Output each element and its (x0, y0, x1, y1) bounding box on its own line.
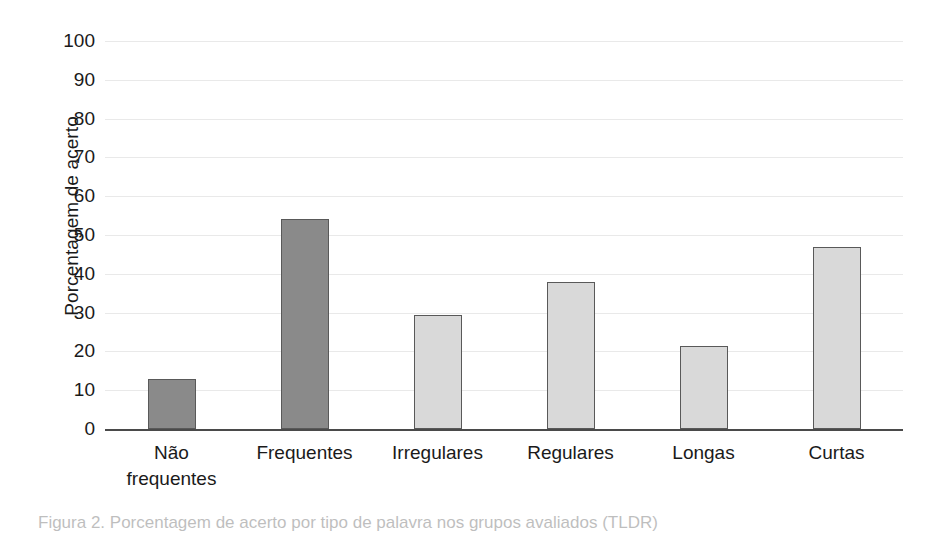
y-axis-tick-label: 80 (33, 109, 95, 128)
y-axis-tick-label: 50 (33, 225, 95, 244)
y-axis-tick-label: 30 (33, 303, 95, 322)
bar (414, 315, 462, 429)
x-axis-category-label-line: Curtas (770, 440, 903, 466)
y-axis-tick-label: 0 (33, 419, 95, 438)
x-axis-category-label: Longas (637, 440, 770, 466)
bar (680, 346, 728, 429)
y-axis-tick-label: 40 (33, 264, 95, 283)
y-axis-tick-label: 60 (33, 186, 95, 205)
x-axis-category-label-line: Não (105, 440, 238, 466)
x-axis-category-label-line: Regulares (504, 440, 637, 466)
x-axis-category-label: Curtas (770, 440, 903, 466)
x-axis-category-label: Nãofrequentes (105, 440, 238, 492)
x-axis-category-label-line: Irregulares (371, 440, 504, 466)
x-axis-category-label: Frequentes (238, 440, 371, 466)
x-axis-category-label: Regulares (504, 440, 637, 466)
x-axis-category-label-line: Longas (637, 440, 770, 466)
bar (547, 282, 595, 429)
x-axis-category-label: Irregulares (371, 440, 504, 466)
bar (281, 219, 329, 429)
y-axis-tick-label: 90 (33, 70, 95, 89)
y-axis-tick-label: 10 (33, 380, 95, 399)
y-axis-tick-label: 20 (33, 341, 95, 360)
y-axis-tick-label: 70 (33, 147, 95, 166)
figure-caption: Figura 2. Porcentagem de acerto por tipo… (38, 512, 908, 534)
x-axis-category-labels: NãofrequentesFrequentesIrregularesRegula… (105, 440, 903, 502)
bar-series (105, 41, 903, 429)
x-axis-category-label-line: frequentes (105, 466, 238, 492)
bar (813, 247, 861, 429)
bar (148, 379, 196, 429)
y-axis-tick-label: 100 (33, 31, 95, 50)
x-axis-category-label-line: Frequentes (238, 440, 371, 466)
axis-baseline (105, 429, 903, 431)
plot-area (105, 41, 903, 429)
